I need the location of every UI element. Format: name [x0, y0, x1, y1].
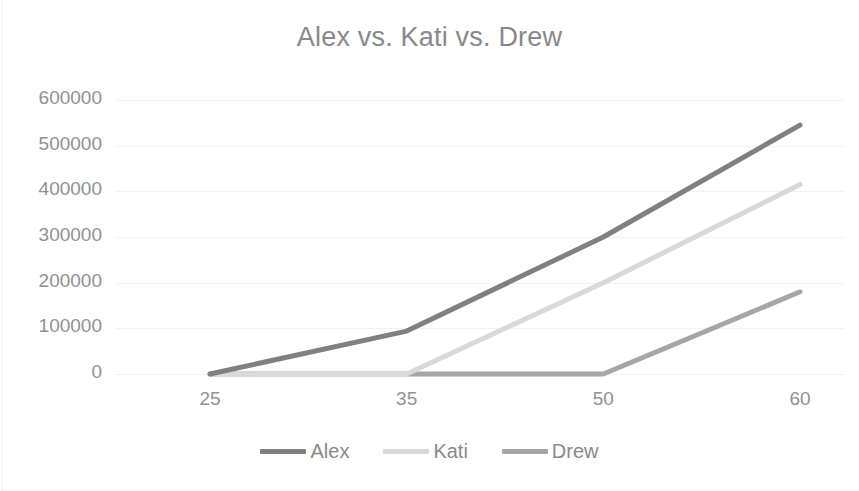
legend-swatch-icon — [383, 449, 429, 454]
x-tick-label: 25 — [199, 388, 220, 410]
x-tick-label: 50 — [593, 388, 614, 410]
series-line-kati — [210, 184, 800, 374]
frame-edge-bottom — [0, 489, 859, 490]
legend-label: Drew — [552, 440, 599, 463]
chart-container: Alex vs. Kati vs. Drew 60000050000040000… — [0, 0, 859, 491]
y-tick-label: 200000 — [2, 270, 102, 292]
y-tick-label: 500000 — [2, 133, 102, 155]
legend-item-alex[interactable]: Alex — [260, 440, 349, 463]
y-tick-label: 400000 — [2, 178, 102, 200]
y-axis: 6000005000004000003000002000001000000 — [0, 100, 102, 374]
legend-label: Alex — [310, 440, 349, 463]
legend-label: Kati — [433, 440, 467, 463]
legend-swatch-icon — [502, 449, 548, 454]
plot-area — [115, 100, 845, 374]
x-tick-label: 60 — [789, 388, 810, 410]
y-tick-label: 300000 — [2, 224, 102, 246]
series-line-alex — [210, 125, 800, 374]
chart-title: Alex vs. Kati vs. Drew — [0, 22, 859, 53]
chart-legend: AlexKatiDrew — [0, 440, 859, 463]
y-tick-label: 600000 — [2, 87, 102, 109]
y-tick-label: 0 — [2, 361, 102, 383]
y-tick-label: 100000 — [2, 315, 102, 337]
x-axis: 25355060 — [115, 388, 845, 418]
series-line-drew — [210, 292, 800, 374]
legend-item-kati[interactable]: Kati — [383, 440, 467, 463]
legend-swatch-icon — [260, 449, 306, 454]
series-lines — [115, 100, 845, 374]
legend-item-drew[interactable]: Drew — [502, 440, 599, 463]
x-tick-label: 35 — [396, 388, 417, 410]
